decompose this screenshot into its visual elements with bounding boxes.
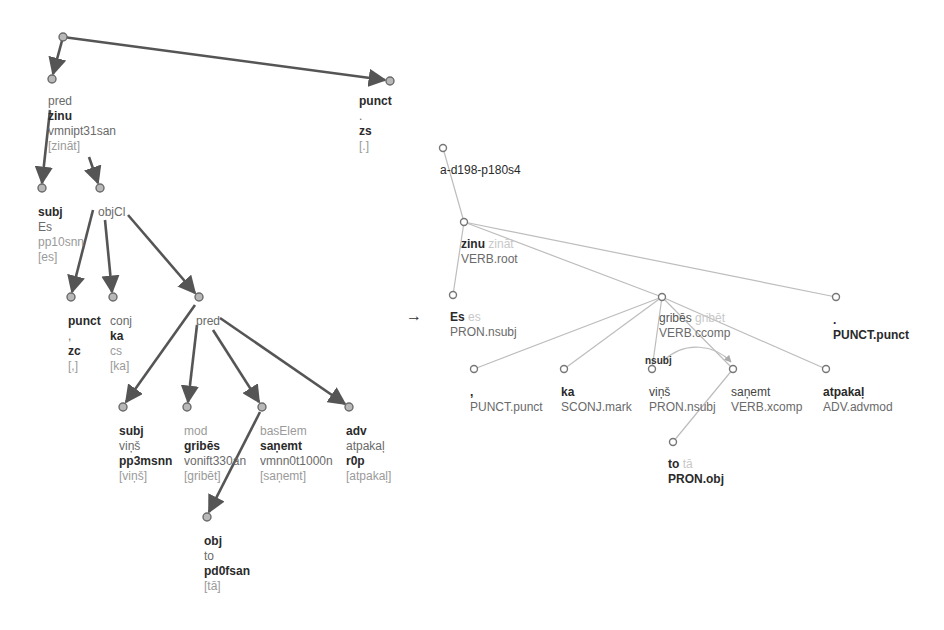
sentence-id-label: a-d198-p180s4 [440, 163, 521, 178]
lemma-label: [viņš] [119, 469, 172, 484]
form-label: ka [561, 385, 632, 400]
form-label: , [68, 329, 101, 344]
node-label-r-atpakal: atpakaļ ADV.advmod [823, 385, 893, 415]
node-label-r-vins: viņš PRON.nsubj [649, 385, 716, 415]
rel-label: objCl [98, 205, 125, 220]
lemma-label: es [468, 310, 481, 324]
form-label: . [833, 313, 909, 328]
tag-label: vmnn0t1000n [260, 454, 333, 469]
lemma-label: [es] [38, 250, 84, 265]
rel-label: punct [68, 314, 101, 329]
lemma-label: [zināt] [48, 139, 116, 154]
lemma-label: [tā] [204, 579, 250, 594]
node-label-r-punct: . PUNCT.punct [833, 313, 909, 343]
rel-label: adv [346, 424, 391, 439]
lemma-label: tā [683, 457, 693, 471]
rel-label: basElem [260, 424, 333, 439]
node-label-r-sanemt: saņemt VERB.xcomp [731, 385, 802, 415]
node-label-subj-vins: subj viņš pp3msnn [viņš] [119, 424, 172, 484]
form-label: viņš [649, 385, 716, 400]
node-label-r-gribes: gribēs gribēt VERB.ccomp [659, 311, 730, 341]
form-label: . [359, 109, 392, 124]
node-label-conj-ka: conj ka cs [ka] [110, 314, 132, 374]
node-label-r-zinu: zinu zināt VERB.root [461, 237, 518, 267]
form-label: saņemt [731, 385, 802, 400]
lemma-label: zināt [488, 237, 513, 251]
tag-label: r0p [346, 454, 391, 469]
tag-label: vonift330an [184, 454, 246, 469]
lemma-label: [,] [68, 359, 101, 374]
form-label: zinu [48, 109, 116, 124]
rel-label: conj [110, 314, 132, 329]
node-label-r-ka: ka SCONJ.mark [561, 385, 632, 415]
node-label-r-comma: , PUNCT.punct [470, 385, 543, 415]
enhanced-edge-label: nsubj [645, 355, 672, 366]
form-label: saņemt [260, 439, 333, 454]
node-label-r-es: Es es PRON.nsubj [450, 310, 517, 340]
form-label: gribēs [184, 439, 246, 454]
node-label-punct-top: punct . zs [.] [359, 94, 392, 154]
pos-rel-label: VERB.xcomp [731, 400, 802, 415]
pos-rel-label: VERB.ccomp [659, 326, 730, 341]
pos-rel-label: PRON.nsubj [649, 400, 716, 415]
form-label: to [668, 457, 679, 471]
pos-rel-label: VERB.root [461, 252, 518, 267]
form-label: to [204, 549, 250, 564]
tag-label: pp10snn [38, 235, 84, 250]
lemma-label: [gribēt] [184, 469, 246, 484]
lemma-label: [ka] [110, 359, 132, 374]
rel-label: punct [359, 94, 392, 109]
lemma-label: [.] [359, 139, 392, 154]
node-label-subj-es: subj Es pp10snn [es] [38, 205, 84, 265]
rel-label: obj [204, 534, 250, 549]
rel-label: pred [48, 94, 116, 109]
form-label: viņš [119, 439, 172, 454]
pos-rel-label: PRON.obj [668, 472, 724, 487]
pos-rel-label: PRON.nsubj [450, 325, 517, 340]
form-label: atpakaļ [346, 439, 391, 454]
rel-label: subj [38, 205, 84, 220]
tag-label: zc [68, 344, 101, 359]
form-label: Es [450, 310, 465, 324]
node-label-pred-zinu: pred zinu vmnipt31san [zināt] [48, 94, 116, 154]
lemma-label: gribēt [695, 311, 725, 325]
form-label: , [470, 385, 543, 400]
node-label-objcl: objCl [98, 205, 125, 220]
tag-label: vmnipt31san [48, 124, 116, 139]
transform-arrow-icon: → [406, 307, 422, 325]
form-label: ka [110, 329, 132, 344]
tag-label: pd0fsan [204, 564, 250, 579]
tag-label: cs [110, 344, 132, 359]
tag-label: pp3msnn [119, 454, 172, 469]
form-label: atpakaļ [823, 385, 893, 400]
rel-label: pred [196, 314, 220, 329]
form-label: zinu [461, 237, 485, 251]
form-label: Es [38, 220, 84, 235]
node-label-mod-gribes: mod gribēs vonift330an [gribēt] [184, 424, 246, 484]
pos-rel-label: SCONJ.mark [561, 400, 632, 415]
node-label-punct-comma: punct , zc [,] [68, 314, 101, 374]
pos-rel-label: PUNCT.punct [833, 328, 909, 343]
tag-label: zs [359, 124, 392, 139]
node-label-pred2: pred [196, 314, 220, 329]
form-label: gribēs [659, 311, 692, 325]
node-label-baselem: basElem saņemt vmnn0t1000n [saņemt] [260, 424, 333, 484]
lemma-label: [saņemt] [260, 469, 333, 484]
node-label-adv: adv atpakaļ r0p [atpakaļ] [346, 424, 391, 484]
node-label-r-to: to tā PRON.obj [668, 457, 724, 487]
pos-rel-label: PUNCT.punct [470, 400, 543, 415]
rel-label: mod [184, 424, 246, 439]
lemma-label: [atpakaļ] [346, 469, 391, 484]
rel-label: subj [119, 424, 172, 439]
pos-rel-label: ADV.advmod [823, 400, 893, 415]
node-label-obj-to: obj to pd0fsan [tā] [204, 534, 250, 594]
